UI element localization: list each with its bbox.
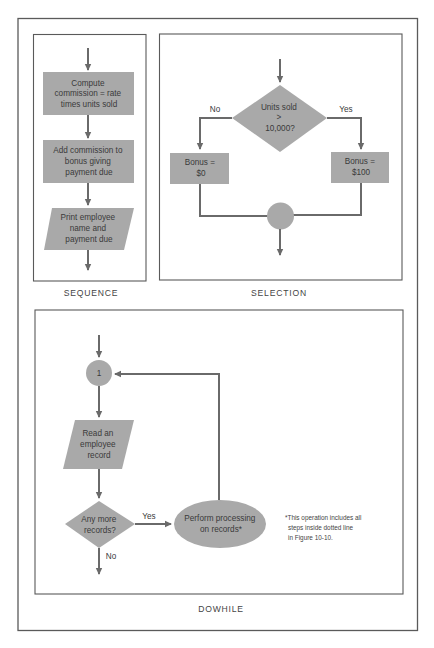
sequence-caption: SEQUENCE xyxy=(64,288,119,298)
selection-caption: SELECTION xyxy=(251,288,307,298)
loop-connector-circle: 1 xyxy=(86,360,112,386)
decision-line: records? xyxy=(84,526,116,535)
dowhile-panel: 1 Read an employee record Any more recor… xyxy=(35,310,403,614)
selection-panel: Units sold > 10,000? No Yes Bonus = $0 B… xyxy=(160,34,403,298)
dowhile-caption: DOWHILE xyxy=(198,604,244,614)
decision-line: 10,000? xyxy=(265,124,295,133)
decision-line: Units sold xyxy=(261,103,297,112)
merge-line-left xyxy=(200,184,268,216)
yes-label: Yes xyxy=(339,105,352,114)
footnote: *This operation includes all steps insid… xyxy=(285,514,363,542)
yes-branch-line xyxy=(327,118,361,149)
step-line: bonus giving xyxy=(65,157,111,166)
step-line: Print employee xyxy=(61,213,116,222)
process-line: on records* xyxy=(200,525,243,534)
process-ellipse-perform-processing: Perform processing on records* xyxy=(174,500,266,548)
merge-connector xyxy=(267,203,294,230)
io-parallelogram-print-employee: Print employee name and payment due xyxy=(44,208,134,250)
process-box-bonus-hundred: Bonus = $100 xyxy=(331,152,389,183)
loop-back-line xyxy=(115,374,219,500)
footnote-line: steps inside dotted line xyxy=(288,524,353,532)
read-line: Read an xyxy=(82,429,113,438)
step-line: payment due xyxy=(65,168,113,177)
step-line: name and xyxy=(70,224,107,233)
footnote-line: *This operation includes all xyxy=(285,514,361,522)
yes-label: Yes xyxy=(142,512,155,521)
step-line: Add commission to xyxy=(53,146,123,155)
process-box-compute-commission: Compute commission = rate times units so… xyxy=(43,72,134,115)
no-label: No xyxy=(106,552,117,561)
step-line: commission = rate xyxy=(55,89,122,98)
decision-line: > xyxy=(276,113,281,122)
branch-line: $100 xyxy=(352,168,371,177)
branch-line: Bonus = xyxy=(185,158,215,167)
connector-label: 1 xyxy=(97,369,102,378)
read-line: record xyxy=(87,451,111,460)
io-parallelogram-read-record: Read an employee record xyxy=(63,420,134,469)
read-line: employee xyxy=(80,440,116,449)
process-box-add-commission: Add commission to bonus giving payment d… xyxy=(43,140,134,183)
process-box-bonus-zero: Bonus = $0 xyxy=(170,153,229,184)
no-label: No xyxy=(210,105,221,114)
flowchart-figure: Compute commission = rate times units so… xyxy=(0,0,434,648)
step-line: Compute xyxy=(71,79,105,88)
decision-diamond-any-more-records: Any more records? xyxy=(65,501,135,548)
process-line: Perform processing xyxy=(184,514,255,523)
branch-line: Bonus = xyxy=(345,157,375,166)
decision-diamond-units-sold: Units sold > 10,000? xyxy=(232,85,327,152)
footnote-line: in Figure 10-10. xyxy=(288,534,333,542)
step-line: payment due xyxy=(65,235,113,244)
decision-line: Any more xyxy=(81,515,116,524)
branch-line: $0 xyxy=(196,169,206,178)
merge-line-right xyxy=(293,183,361,215)
no-branch-line xyxy=(200,118,232,149)
step-line: times units sold xyxy=(61,100,118,109)
sequence-panel: Compute commission = rate times units so… xyxy=(34,35,147,299)
